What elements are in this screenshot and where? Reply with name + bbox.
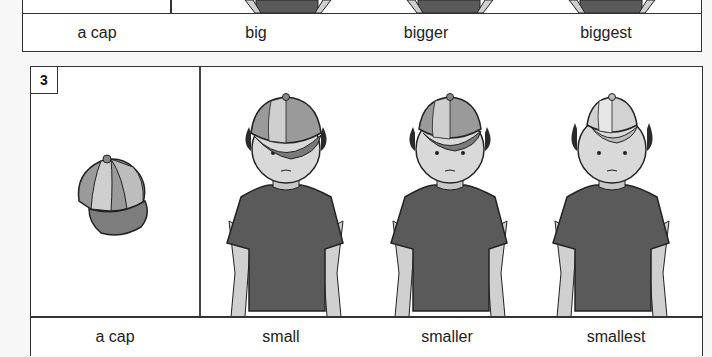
label-a-cap: a cap — [23, 14, 171, 51]
panel-2-illustrations — [22, 0, 702, 14]
panel-number-badge: 3 — [31, 67, 58, 94]
panel-2-label-row: a cap big bigger biggest — [22, 13, 702, 52]
label-a-cap: a cap — [31, 319, 199, 355]
label-smallest: smallest — [531, 319, 701, 355]
label-big: big — [171, 14, 341, 51]
label-biggest: biggest — [511, 14, 701, 51]
panel-2-boys-bottom — [23, 0, 703, 14]
label-smaller: smaller — [367, 319, 527, 355]
boy-small-cap-figure — [221, 93, 351, 317]
panel-3: 3 — [30, 66, 703, 356]
label-small: small — [201, 319, 361, 355]
panel-3-divider — [199, 67, 201, 317]
panel-3-label-divider — [31, 316, 702, 318]
boy-smaller-cap-figure — [385, 93, 515, 317]
label-bigger: bigger — [341, 14, 511, 51]
boy-smallest-cap-figure — [547, 93, 677, 317]
cap-icon — [71, 151, 161, 241]
